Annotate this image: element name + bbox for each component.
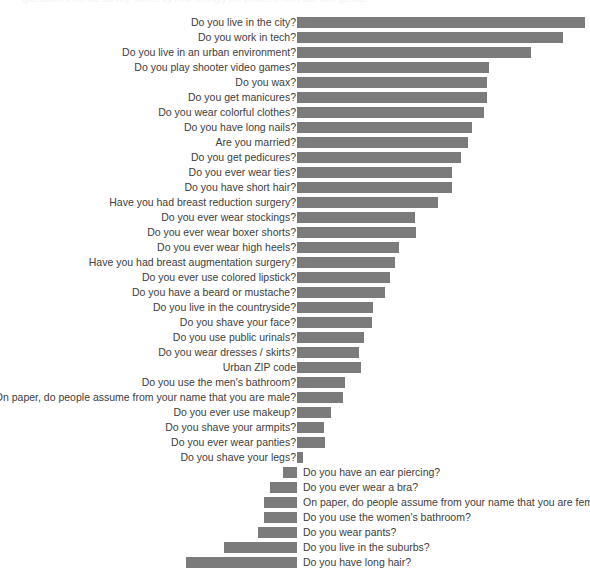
bar-negative: [283, 467, 297, 478]
bar-positive: [297, 182, 452, 193]
bar-positive: [297, 377, 345, 388]
bar-label: Do you have a beard or mustache?: [132, 285, 296, 300]
bar-label: Do you shave your face?: [180, 315, 296, 330]
chart-row: Do you shave your legs?: [0, 450, 590, 465]
chart-row: On paper, do people assume from your nam…: [0, 390, 590, 405]
bar-positive: [297, 212, 415, 223]
bar-positive: [297, 287, 385, 298]
chart-row: Do you live in the suburbs?: [0, 540, 590, 555]
bar-label: Do you wear pants?: [303, 525, 396, 540]
chart-row: Do you get manicures?: [0, 90, 590, 105]
bar-label: Do you have long hair?: [303, 555, 411, 570]
bar-label: Do you ever wear boxer shorts?: [147, 225, 296, 240]
bar-positive: [297, 197, 438, 208]
chart-row: Do you ever wear stockings?: [0, 210, 590, 225]
bar-label: Do you ever wear high heels?: [157, 240, 296, 255]
bar-positive: [297, 242, 399, 253]
bar-positive: [297, 332, 364, 343]
diverging-bar-chart: Questions from the survey, sorted by how…: [0, 0, 590, 575]
bar-positive: [297, 362, 361, 373]
bar-positive: [297, 92, 487, 103]
bar-label: Do you ever wear ties?: [189, 165, 296, 180]
chart-row: Do you have long hair?: [0, 555, 590, 570]
chart-row: Do you wear colorful clothes?: [0, 105, 590, 120]
chart-row: Do you have a beard or mustache?: [0, 285, 590, 300]
bar-label: On paper, do people assume from your nam…: [303, 495, 590, 510]
chart-row: Do you live in the city?: [0, 15, 590, 30]
chart-row: Do you shave your armpits?: [0, 420, 590, 435]
bar-label: Do you use the women's bathroom?: [303, 510, 471, 525]
chart-row: Do you get pedicures?: [0, 150, 590, 165]
bar-positive: [297, 107, 484, 118]
bar-positive: [297, 32, 563, 43]
bar-positive: [297, 257, 395, 268]
bar-label: Do you ever wear panties?: [171, 435, 296, 450]
bar-label: Do you live in an urban environment?: [122, 45, 296, 60]
bar-negative: [264, 497, 297, 508]
bar-label: Do you work in tech?: [198, 30, 296, 45]
bar-positive: [297, 302, 373, 313]
bar-label: Do you have an ear piercing?: [303, 465, 440, 480]
bar-label: Have you had breast augmentation surgery…: [89, 255, 296, 270]
bar-positive: [297, 167, 452, 178]
bar-positive: [297, 317, 372, 328]
bar-negative: [258, 527, 297, 538]
chart-row: Do you live in an urban environment?: [0, 45, 590, 60]
chart-row: Do you have an ear piercing?: [0, 465, 590, 480]
chart-row: Do you ever use makeup?: [0, 405, 590, 420]
bar-label: Do you wear dresses / skirts?: [158, 345, 296, 360]
chart-row: Do you ever wear high heels?: [0, 240, 590, 255]
chart-row: On paper, do people assume from your nam…: [0, 495, 590, 510]
bar-label: Do you have short hair?: [185, 180, 296, 195]
bar-label: Do you have long nails?: [184, 120, 296, 135]
bar-label: Urban ZIP code: [223, 360, 296, 375]
bar-positive: [297, 452, 303, 463]
bar-label: On paper, do people assume from your nam…: [0, 390, 296, 405]
chart-row: Do you live in the countryside?: [0, 300, 590, 315]
bar-negative: [224, 542, 297, 553]
chart-row: Do you shave your face?: [0, 315, 590, 330]
bar-label: Do you wax?: [235, 75, 296, 90]
bar-positive: [297, 62, 489, 73]
bar-label: Do you live in the countryside?: [153, 300, 296, 315]
bar-positive: [297, 227, 416, 238]
chart-row: Do you wear dresses / skirts?: [0, 345, 590, 360]
chart-row: Do you ever wear ties?: [0, 165, 590, 180]
bar-label: Do you ever wear stockings?: [161, 210, 296, 225]
clipped-chart-title: Questions from the survey, sorted by how…: [22, 0, 562, 4]
bar-label: Do you shave your legs?: [180, 450, 296, 465]
bar-negative: [270, 482, 297, 493]
bar-positive: [297, 272, 390, 283]
chart-row: Do you use the men's bathroom?: [0, 375, 590, 390]
bar-positive: [297, 407, 331, 418]
bar-negative: [186, 557, 297, 568]
bar-positive: [297, 392, 343, 403]
bar-negative: [264, 512, 297, 523]
chart-row: Do you ever wear boxer shorts?: [0, 225, 590, 240]
bar-label: Do you get manicures?: [188, 90, 296, 105]
chart-row: Have you had breast augmentation surgery…: [0, 255, 590, 270]
bar-positive: [297, 437, 325, 448]
chart-row: Do you use the women's bathroom?: [0, 510, 590, 525]
bar-label: Are you married?: [215, 135, 296, 150]
bar-label: Do you wear colorful clothes?: [158, 105, 296, 120]
chart-row: Do you work in tech?: [0, 30, 590, 45]
chart-row: Urban ZIP code: [0, 360, 590, 375]
bar-label: Do you use the men's bathroom?: [142, 375, 296, 390]
chart-row: Do you ever use colored lipstick?: [0, 270, 590, 285]
bar-positive: [297, 347, 359, 358]
bar-positive: [297, 422, 324, 433]
chart-row: Do you wear pants?: [0, 525, 590, 540]
chart-row: Do you ever wear panties?: [0, 435, 590, 450]
chart-row: Do you ever wear a bra?: [0, 480, 590, 495]
bar-positive: [297, 47, 531, 58]
bar-label: Do you live in the city?: [191, 15, 296, 30]
chart-row: Do you use public urinals?: [0, 330, 590, 345]
bar-label: Do you shave your armpits?: [165, 420, 296, 435]
chart-row: Do you wax?: [0, 75, 590, 90]
bar-label: Do you live in the suburbs?: [303, 540, 430, 555]
chart-row: Are you married?: [0, 135, 590, 150]
chart-row: Have you had breast reduction surgery?: [0, 195, 590, 210]
bar-label: Have you had breast reduction surgery?: [109, 195, 296, 210]
bar-positive: [297, 77, 487, 88]
